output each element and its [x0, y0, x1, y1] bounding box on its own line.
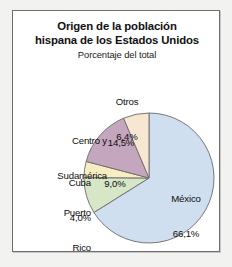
- figure-panel: Origen de la población hispana de los Es…: [12, 10, 220, 252]
- slice-callout-otros-name: Otros: [99, 96, 155, 108]
- slice-callout-puerto-rico-name-line-1: Puerto: [19, 207, 91, 219]
- slice-callout-puerto-rico-name-line-2: Rico: [19, 242, 91, 254]
- slice-callout-puerto-rico: Puerto Rico: [19, 184, 91, 267]
- slice-value-puerto-rico: 9,0%: [91, 178, 139, 190]
- slice-label-mexico-value: 66,1%: [155, 228, 217, 240]
- slice-label-mexico-name: México: [155, 193, 217, 205]
- slice-label-mexico: México 66,1%: [155, 170, 217, 263]
- slice-value-centro-y-sudamerica: 14,5%: [97, 137, 145, 149]
- slice-callout-centro-name-line-1: Centro y: [19, 135, 107, 147]
- slice-callout-otros: Otros 6,4%: [99, 73, 155, 166]
